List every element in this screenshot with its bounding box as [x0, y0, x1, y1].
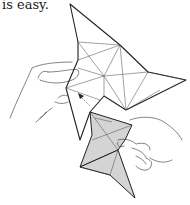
- left-hand: [10, 62, 79, 122]
- paper-star: [66, 4, 186, 140]
- origami-illustration: [0, 0, 190, 205]
- fold-arrow-icon: [78, 93, 90, 106]
- shaded-flap: [80, 112, 135, 198]
